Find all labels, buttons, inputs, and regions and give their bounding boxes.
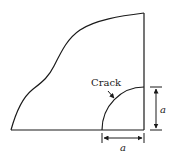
crack-diagram: Crack a a bbox=[0, 0, 176, 157]
body-curved-edge bbox=[11, 13, 144, 130]
crack-arc bbox=[102, 87, 144, 130]
vertical-dim-label: a bbox=[160, 104, 166, 115]
horizontal-dim-label: a bbox=[120, 142, 126, 153]
crack-label: Crack bbox=[91, 77, 122, 88]
crack-pointer-arrow bbox=[108, 91, 114, 98]
